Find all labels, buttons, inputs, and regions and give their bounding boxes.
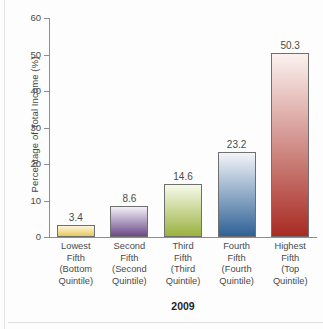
bar: 3.4 <box>57 225 95 237</box>
category-label-line: (Second <box>103 264 157 276</box>
category-label-line: Fifth <box>103 253 157 265</box>
y-tick-mark <box>44 201 50 202</box>
y-tick-mark <box>44 237 50 238</box>
category-label: HighestFifth(TopQuintile) <box>263 241 317 287</box>
category-label-line: Fifth <box>49 253 103 265</box>
category-label-line: Quintile) <box>49 276 103 288</box>
category-label-line: Lowest <box>49 241 103 253</box>
category-label-line: Quintile) <box>103 276 157 288</box>
chart-figure: Percentage of Total Income (%) 010203040… <box>0 0 323 329</box>
y-tick: 40 <box>49 91 50 92</box>
x-axis-line <box>49 237 317 238</box>
category-label-line: (Fourth <box>210 264 264 276</box>
y-tick-mark <box>44 55 50 56</box>
y-tick: 10 <box>49 201 50 202</box>
category-label-line: Quintile) <box>263 276 317 288</box>
y-tick: 50 <box>49 55 50 56</box>
category-label: FourthFifth(FourthQuintile) <box>210 241 264 287</box>
bar: 8.6 <box>110 206 148 237</box>
category-label-line: Highest <box>263 241 317 253</box>
page-edge-artifact-left <box>4 0 5 329</box>
y-tick-label: 10 <box>30 195 41 206</box>
category-label: ThirdFifth(ThirdQuintile) <box>156 241 210 287</box>
y-tick: 0 <box>49 237 50 238</box>
category-label-line: Fifth <box>156 253 210 265</box>
x-axis-category-labels: LowestFifth(BottomQuintile)SecondFifth(S… <box>49 241 317 293</box>
y-tick-mark <box>44 91 50 92</box>
bar: 50.3 <box>271 53 309 237</box>
y-tick: 20 <box>49 164 50 165</box>
bar: 23.2 <box>218 152 256 237</box>
category-label-line: Second <box>103 241 157 253</box>
bar-value-label: 3.4 <box>69 212 83 223</box>
bar: 14.6 <box>164 184 202 237</box>
category-label-line: (Bottom <box>49 264 103 276</box>
category-label-line: Fifth <box>210 253 264 265</box>
plot-area: 0102030405060 3.48.614.623.250.3 <box>49 18 317 237</box>
category-label: SecondFifth(SecondQuintile) <box>103 241 157 287</box>
y-tick-mark <box>44 18 50 19</box>
x-axis-title: 2009 <box>49 300 317 312</box>
bar-value-label: 23.2 <box>227 139 246 150</box>
category-label: LowestFifth(BottomQuintile) <box>49 241 103 287</box>
bar-value-label: 14.6 <box>173 171 192 182</box>
page-edge-artifact-bottom <box>8 322 323 323</box>
y-tick-label: 50 <box>30 49 41 60</box>
category-label-line: Third <box>156 241 210 253</box>
y-tick-label: 30 <box>30 122 41 133</box>
y-tick-label: 20 <box>30 158 41 169</box>
bar-value-label: 50.3 <box>280 40 299 51</box>
category-label-line: Quintile) <box>210 276 264 288</box>
category-label-line: (Top <box>263 264 317 276</box>
y-tick: 60 <box>49 18 50 19</box>
bar-value-label: 8.6 <box>122 193 136 204</box>
y-tick-label: 60 <box>30 12 41 23</box>
y-tick-mark <box>44 128 50 129</box>
y-tick: 30 <box>49 128 50 129</box>
y-tick-label: 40 <box>30 85 41 96</box>
category-label-line: (Third <box>156 264 210 276</box>
y-tick-label: 0 <box>36 231 41 242</box>
category-label-line: Fourth <box>210 241 264 253</box>
category-label-line: Fifth <box>263 253 317 265</box>
category-label-line: Quintile) <box>156 276 210 288</box>
y-tick-mark <box>44 164 50 165</box>
